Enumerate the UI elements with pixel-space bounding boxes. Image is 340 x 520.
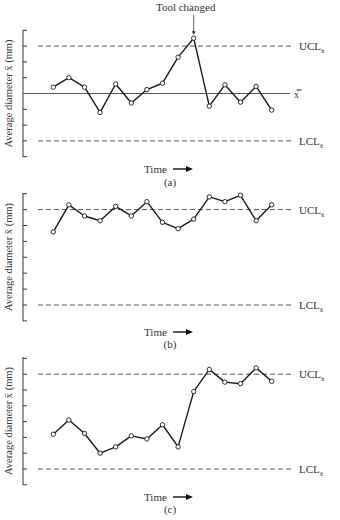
lcl-label: LCLx̄ <box>299 463 324 478</box>
data-point-marker <box>82 214 86 218</box>
data-point-marker <box>238 381 242 385</box>
data-point-marker <box>98 219 102 223</box>
data-point-marker <box>254 219 258 223</box>
data-series-line <box>53 368 271 453</box>
y-axis-label: Average diameter x̄ (mm) <box>3 367 15 475</box>
data-point-marker <box>98 110 102 114</box>
y-axis-label: Average diameter x̄ (mm) <box>3 39 15 147</box>
data-point-marker <box>207 367 211 371</box>
data-point-marker <box>114 82 118 86</box>
data-point-marker <box>82 85 86 89</box>
data-point-marker <box>114 445 118 449</box>
lcl-label: LCLx̄ <box>299 299 324 314</box>
data-point-marker <box>129 434 133 438</box>
lcl-label: LCLx̄ <box>299 135 324 150</box>
data-point-marker <box>82 431 86 435</box>
data-point-marker <box>114 204 118 208</box>
x-axis-label: Time <box>144 491 167 503</box>
data-point-marker <box>51 432 55 436</box>
chart-panel-b: Average diameter x̄ (mm)UCLx̄LCLx̄Time(b… <box>3 193 325 351</box>
panel-label: (c) <box>164 503 177 516</box>
data-point-marker <box>129 214 133 218</box>
x-axis-label: Time <box>144 326 167 338</box>
data-point-marker <box>238 193 242 197</box>
time-arrowhead-icon <box>186 166 193 172</box>
data-point-marker <box>160 220 164 224</box>
data-point-marker <box>192 36 196 40</box>
data-point-marker <box>223 83 227 87</box>
data-point-marker <box>160 423 164 427</box>
ucl-label: UCLx̄ <box>299 40 325 55</box>
center-line-label: x̿ <box>294 89 302 100</box>
data-point-marker <box>176 226 180 230</box>
data-point-marker <box>67 418 71 422</box>
data-point-marker <box>145 199 149 203</box>
time-arrowhead-icon <box>186 494 193 500</box>
data-point-marker <box>270 379 274 383</box>
chart-panel-c: Average diameter x̄ (mm)UCLx̄LCLx̄Time(c… <box>3 357 325 516</box>
data-series-line <box>53 195 271 232</box>
data-point-marker <box>207 195 211 199</box>
data-point-marker <box>254 366 258 370</box>
data-point-marker <box>192 217 196 221</box>
data-point-marker <box>207 104 211 108</box>
data-point-marker <box>176 55 180 59</box>
panel-label: (a) <box>164 176 177 189</box>
data-point-marker <box>129 101 133 105</box>
panel-label: (b) <box>164 338 177 351</box>
data-point-marker <box>145 437 149 441</box>
data-point-marker <box>270 203 274 207</box>
data-point-marker <box>254 84 258 88</box>
control-charts-figure: Average diameter x̄ (mm)UCLx̄LCLx̄x̿Tool… <box>0 0 340 520</box>
ucl-label: UCLx̄ <box>299 204 325 219</box>
data-point-marker <box>238 100 242 104</box>
data-point-marker <box>160 81 164 85</box>
data-point-marker <box>176 445 180 449</box>
data-point-marker <box>98 451 102 455</box>
ucl-label: UCLx̄ <box>299 368 325 383</box>
data-point-marker <box>270 108 274 112</box>
data-point-marker <box>67 203 71 207</box>
data-point-marker <box>223 380 227 384</box>
data-point-marker <box>145 87 149 91</box>
data-point-marker <box>51 85 55 89</box>
y-axis-label: Average diameter x̄ (mm) <box>3 203 15 311</box>
data-point-marker <box>51 230 55 234</box>
tool-changed-annotation: Tool changed <box>156 1 216 13</box>
annotation-arrowhead-icon <box>192 31 196 35</box>
data-point-marker <box>192 389 196 393</box>
time-arrowhead-icon <box>186 329 193 335</box>
data-point-marker <box>67 76 71 80</box>
chart-panel-a: Average diameter x̄ (mm)UCLx̄LCLx̄x̿Tool… <box>3 1 325 189</box>
data-point-marker <box>223 199 227 203</box>
x-axis-label: Time <box>144 163 167 175</box>
